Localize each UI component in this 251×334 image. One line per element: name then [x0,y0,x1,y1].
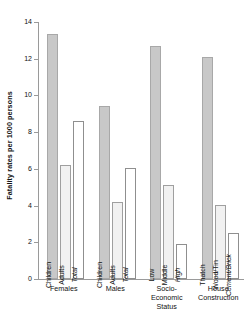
bar-label: Low [148,269,156,282]
bar-label: Adults [109,265,117,284]
bar-label: Middle [161,265,169,286]
y-axis-tick-label: 6 [28,164,32,173]
y-axis-title-text: Fatality rates per 1000 persons [5,91,14,200]
bar[interactable]: Total [125,168,136,279]
y-axis-title: Fatality rates per 1000 persons [0,0,18,290]
bar[interactable]: Adults [60,165,71,279]
bar-label: Thatch [199,264,207,285]
bar[interactable]: Low [150,46,161,279]
y-axis-tick: 14 [34,22,38,23]
bar-label: High [174,268,182,282]
y-axis-line [38,22,39,279]
plot-area: 02468101214 ChildrenAdultsTotalChildrenA… [38,22,244,279]
y-axis-tick: 4 [34,206,38,207]
bar-label: Adults [58,265,66,284]
group-label: House Construction [187,284,251,302]
y-axis-tick: 8 [34,132,38,133]
bar[interactable]: High [176,244,187,279]
y-axis-tick-label: 12 [24,54,32,63]
bar-label: Total [122,268,130,283]
y-axis-tick: 6 [34,169,38,170]
bar[interactable]: Cement/Brick [228,233,239,279]
bar[interactable]: Total [73,121,84,279]
y-axis-tick: 12 [34,59,38,60]
y-axis-tick-label: 4 [28,201,32,210]
y-axis-tick-label: 0 [28,274,32,283]
y-axis-tick: 2 [34,242,38,243]
bar[interactable]: Children [47,34,58,279]
y-axis-tick: 0 [34,279,38,280]
bar[interactable]: Middle [163,185,174,279]
y-axis-tick-label: 8 [28,127,32,136]
y-axis-tick: 10 [34,95,38,96]
bar[interactable]: Thatch [202,57,213,279]
bar[interactable]: Children [99,106,110,279]
y-axis-tick-label: 2 [28,237,32,246]
bar-label: Total [71,268,79,283]
bar-chart: Fatality rates per 1000 persons 02468101… [0,0,250,334]
y-axis-tick-label: 10 [24,90,32,99]
y-axis-tick-label: 14 [24,17,32,26]
